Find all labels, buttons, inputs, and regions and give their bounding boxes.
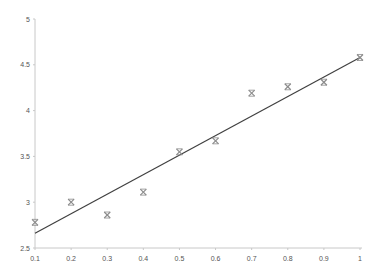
x-tick-label: 0.4 xyxy=(138,255,148,262)
x-tick-label: 0.5 xyxy=(175,255,185,262)
data-point-star-icon xyxy=(321,79,327,85)
data-point-star-icon xyxy=(249,90,255,96)
data-point-star-icon xyxy=(357,54,363,60)
x-tick-label: 0.8 xyxy=(283,255,293,262)
x-tick-label: 0.9 xyxy=(319,255,329,262)
series-layer xyxy=(32,54,363,233)
y-tick-label: 3.5 xyxy=(20,153,30,160)
y-tick-label: 4 xyxy=(26,107,30,114)
data-point-star-icon xyxy=(68,199,74,205)
trendline xyxy=(35,57,360,233)
data-point-star-icon xyxy=(285,84,291,90)
data-point-star-icon xyxy=(213,138,219,144)
y-tick-label: 4.5 xyxy=(20,61,30,68)
x-tick-label: 1 xyxy=(358,255,362,262)
data-point-star-icon xyxy=(140,189,146,195)
data-point-star-icon xyxy=(104,212,110,218)
y-tick-label: 5 xyxy=(26,16,30,23)
data-point-star-icon xyxy=(176,149,182,155)
x-tick-label: 0.1 xyxy=(30,255,40,262)
scatter-chart: 2.533.544.55 0.10.20.30.40.50.60.70.80.9… xyxy=(0,0,382,280)
y-axis: 2.533.544.55 xyxy=(20,16,35,252)
x-tick-label: 0.3 xyxy=(102,255,112,262)
y-tick-label: 3 xyxy=(26,199,30,206)
x-tick-label: 0.6 xyxy=(211,255,221,262)
x-tick-label: 0.2 xyxy=(66,255,76,262)
x-axis: 0.10.20.30.40.50.60.70.80.91 xyxy=(30,248,362,262)
y-tick-label: 2.5 xyxy=(20,245,30,252)
x-tick-label: 0.7 xyxy=(247,255,257,262)
